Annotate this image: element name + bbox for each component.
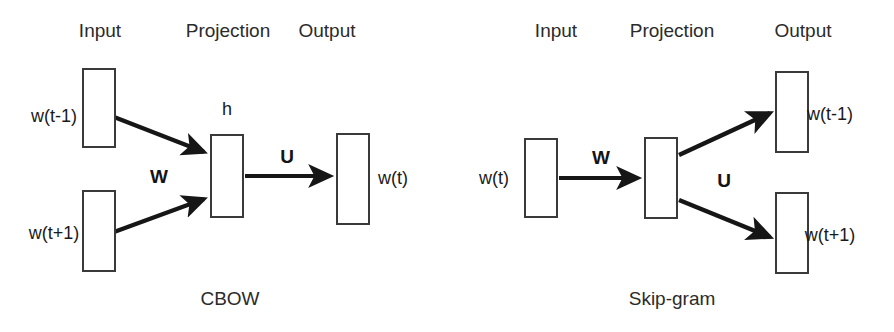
skipgram-output-top-label: w(t-1) [807, 105, 853, 123]
skipgram-column-header-input: Input [535, 21, 577, 40]
skipgram-edge-weight-label-u: U [717, 171, 731, 190]
skipgram-input-label: w(t) [479, 169, 509, 187]
cbow-input-box-bottom [82, 190, 116, 272]
skipgram-output-bottom-label: w(t+1) [805, 226, 856, 244]
cbow-output-box [336, 133, 370, 225]
skipgram-column-header-projection: Projection [630, 21, 715, 40]
cbow-column-header-output: Output [298, 21, 355, 40]
cbow-input-box-top [82, 68, 116, 148]
cbow-column-header-input: Input [79, 21, 121, 40]
skipgram-projection-box [644, 137, 678, 219]
cbow-projection-label: h [222, 100, 232, 118]
skipgram-input-box [524, 138, 558, 218]
cbow-projection-box [210, 134, 244, 218]
cbow-caption: CBOW [200, 289, 259, 308]
cbow-input-top-label: w(t-1) [31, 107, 77, 125]
word2vec-architecture-figure: Input Projection Output w(t-1) w(t+1) h … [0, 0, 894, 332]
skipgram-column-header-output: Output [774, 21, 831, 40]
node-layer [0, 0, 894, 332]
cbow-edge-weight-label-u: U [280, 147, 294, 166]
cbow-output-label: w(t) [378, 169, 408, 187]
cbow-column-header-projection: Projection [186, 21, 271, 40]
skipgram-edge-weight-label-w: W [592, 148, 610, 167]
skipgram-caption: Skip-gram [629, 289, 716, 308]
skipgram-output-box-top [775, 71, 809, 153]
cbow-edge-weight-label-w: W [150, 167, 168, 186]
cbow-input-bottom-label: w(t+1) [29, 224, 80, 242]
